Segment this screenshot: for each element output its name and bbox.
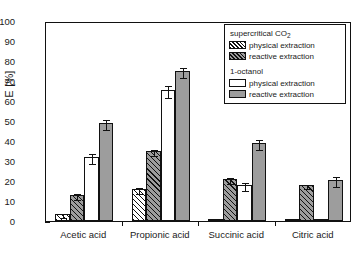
error-cap-upper	[227, 178, 234, 179]
legend-item-label: reactive extraction	[249, 52, 314, 61]
chart-legend: supercritical CO2physical extractionreac…	[224, 24, 346, 104]
legend-swatch-icon	[229, 41, 246, 49]
error-cap-lower	[151, 156, 158, 157]
x-tick	[198, 222, 199, 226]
y-tick-label: 10	[0, 197, 15, 206]
error-bar	[92, 154, 93, 164]
x-category-label: Citric acid	[292, 229, 334, 240]
bar	[299, 185, 314, 221]
bar	[285, 219, 300, 221]
error-cap-lower	[74, 200, 81, 201]
y-tick-label: 20	[0, 177, 15, 186]
error-cap-lower	[60, 218, 67, 219]
bar	[99, 123, 114, 221]
y-tick-label: 30	[0, 157, 15, 166]
error-bar	[168, 86, 169, 98]
x-tick	[122, 222, 123, 226]
error-cap-upper	[333, 177, 340, 178]
bar	[146, 151, 161, 221]
y-tick-label: 80	[0, 57, 15, 66]
error-cap-upper	[180, 68, 187, 69]
legend-group-title: 1-octanol	[229, 66, 341, 77]
legend-item-label: physical extraction	[249, 79, 315, 88]
y-tick-label: 50	[0, 117, 15, 126]
error-cap-upper	[60, 214, 67, 215]
bar	[314, 219, 329, 221]
legend-swatch-icon	[229, 90, 246, 98]
legend-swatch-icon	[229, 79, 246, 87]
legend-item[interactable]: reactive extraction	[229, 89, 341, 99]
error-cap-lower	[180, 78, 187, 79]
y-tick-label: 70	[0, 77, 15, 86]
bar	[223, 179, 238, 221]
error-cap-upper	[103, 120, 110, 121]
error-cap-upper	[151, 150, 158, 151]
legend-item[interactable]: physical extraction	[229, 78, 341, 88]
x-tick	[275, 222, 276, 226]
x-category-label: Acetic acid	[60, 229, 106, 240]
error-cap-lower	[136, 194, 143, 195]
bar	[175, 71, 190, 221]
error-cap-lower	[165, 98, 172, 99]
legend-group-title: supercritical CO2	[229, 28, 341, 39]
legend-item-label: reactive extraction	[249, 90, 314, 99]
error-cap-lower	[333, 187, 340, 188]
chart-figure: E [%] 0102030405060708090100 Acetic acid…	[0, 0, 364, 274]
x-category-label: Propionic acid	[130, 229, 190, 240]
bar	[208, 219, 223, 221]
error-cap-lower	[242, 191, 249, 192]
bar	[252, 143, 267, 221]
y-tick-label: 60	[0, 97, 15, 106]
error-cap-lower	[103, 130, 110, 131]
error-cap-upper	[304, 185, 311, 186]
error-bar	[259, 140, 260, 150]
error-cap-upper	[242, 183, 249, 184]
bar	[161, 90, 176, 221]
y-tick-label: 100	[0, 17, 15, 26]
error-bar	[183, 68, 184, 78]
error-cap-upper	[256, 140, 263, 141]
legend-subscript: 2	[287, 32, 291, 39]
legend-item[interactable]: physical extraction	[229, 40, 341, 50]
error-cap-upper	[74, 194, 81, 195]
x-category-label: Succinic acid	[209, 229, 264, 240]
legend-swatch-icon	[229, 52, 246, 60]
error-cap-upper	[165, 86, 172, 87]
error-cap-lower	[89, 164, 96, 165]
y-tick-label: 40	[0, 137, 15, 146]
error-cap-upper	[136, 188, 143, 189]
legend-item-label: physical extraction	[249, 41, 315, 50]
error-cap-lower	[256, 150, 263, 151]
bar	[84, 157, 99, 221]
error-cap-lower	[304, 189, 311, 190]
y-tick-label: 0	[0, 217, 15, 226]
error-cap-upper	[89, 154, 96, 155]
error-bar	[106, 120, 107, 130]
y-tick-label: 90	[0, 37, 15, 46]
error-bar	[336, 177, 337, 187]
error-cap-lower	[227, 184, 234, 185]
y-tick-major	[45, 222, 50, 223]
legend-item[interactable]: reactive extraction	[229, 51, 341, 61]
error-bar	[245, 183, 246, 191]
